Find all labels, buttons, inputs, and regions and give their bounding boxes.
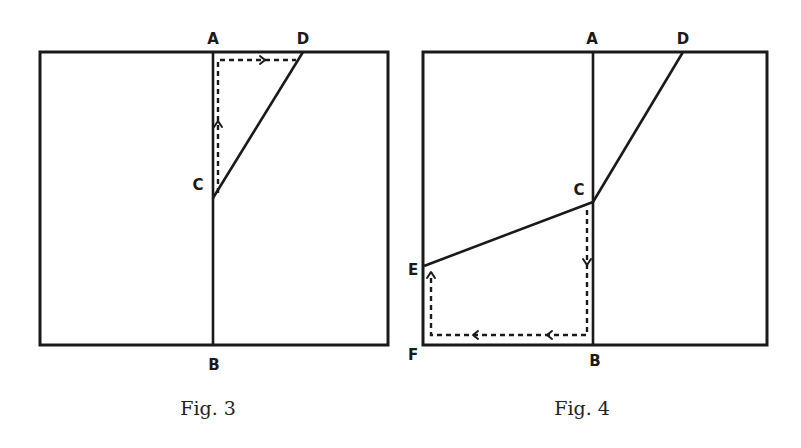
- label-a: A: [207, 30, 219, 48]
- label-d: D: [297, 30, 309, 48]
- label-a: A: [586, 30, 598, 48]
- line-cd: [593, 52, 683, 202]
- label-c: C: [192, 176, 203, 194]
- figure-caption: Fig. 3: [180, 397, 236, 419]
- label-b: B: [589, 352, 600, 370]
- figures-canvas: A D C B Fig. 3 A D C E F B Fig. 4: [0, 0, 801, 448]
- label-d: D: [677, 30, 689, 48]
- line-cd: [213, 52, 303, 198]
- arrow-up-icon: [427, 272, 435, 278]
- dashed-path-c-b-f-e: [431, 210, 587, 335]
- label-c: C: [573, 181, 584, 199]
- label-b: B: [208, 356, 219, 374]
- figure-3: A D C B Fig. 3: [40, 30, 388, 419]
- label-e: E: [408, 261, 418, 279]
- figure-4: A D C E F B Fig. 4: [408, 30, 767, 419]
- line-ce: [424, 202, 593, 266]
- label-f: F: [408, 346, 418, 364]
- figure-caption: Fig. 4: [554, 397, 610, 419]
